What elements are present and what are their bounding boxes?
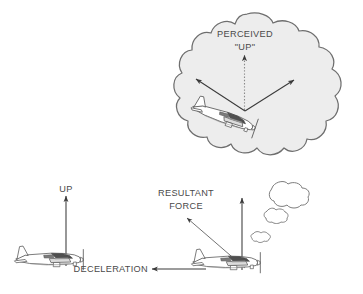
cloud-small-icon [251,232,270,243]
cloud-medium-icon [264,208,288,223]
perceived-up-scene: PERCEIVED "UP" [174,13,341,155]
resultant-force-label-line2: FORCE [169,201,203,211]
resultant-force-label-line1: RESULTANT [158,188,214,198]
level-flight-scene: UP [14,184,83,270]
up-label: UP [59,184,72,194]
decelerating-aircraft [191,249,260,273]
deceleration-label: DECELERATION [74,264,148,274]
perceived-label: PERCEIVED [217,29,273,39]
somatogravic-illusion-diagram: PERCEIVED "UP" UP RESULTANT FORCE DECELE… [0,0,363,294]
deceleration-scene: RESULTANT FORCE DECELERATION [74,182,310,274]
perceived-up-label: "UP" [235,42,256,52]
cloud-large-icon [269,182,309,208]
